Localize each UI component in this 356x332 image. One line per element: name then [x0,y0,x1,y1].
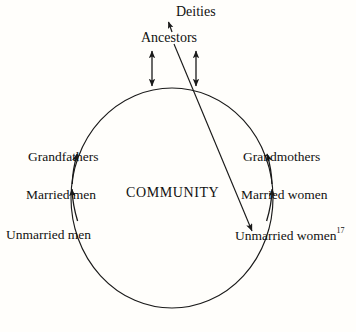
label-married-men: Married men [26,188,96,202]
label-married-women: Married women [241,188,328,202]
label-unmarried-men: Unmarried men [6,228,91,242]
label-grandfathers: Grandfathers [28,150,98,164]
label-deities: Deities [176,5,216,19]
label-grandmothers: Grandmothers [243,150,320,164]
diagonal-arrow-icon-ancestors-to-unmarried-women [174,44,252,231]
label-community: COMMUNITY [126,186,219,200]
diagram-canvas [0,0,356,332]
label-unmarried-women: Unmarried women [235,228,337,243]
label-unmarried-women-group: Unmarried women17 [235,228,345,242]
community-lifecycle-diagram: Deities Ancestors COMMUNITY Grandfathers… [0,0,356,332]
footnote-marker: 17 [337,226,345,235]
label-ancestors: Ancestors [141,31,197,45]
